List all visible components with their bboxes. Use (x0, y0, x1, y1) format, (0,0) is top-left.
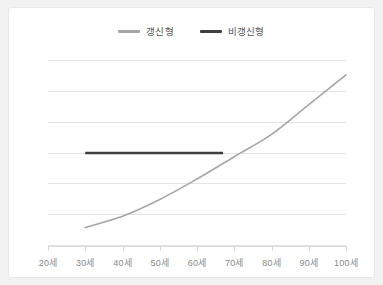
x-axis-tick (346, 246, 347, 251)
x-axis-tick (309, 246, 310, 251)
chart-legend: 갱신형 비갱신형 (9, 24, 374, 38)
x-axis-tick (234, 246, 235, 251)
x-axis-tick-label: 100세 (334, 256, 358, 269)
legend-item-renewable[interactable]: 갱신형 (118, 24, 174, 38)
x-axis-tick-label: 20세 (39, 256, 58, 269)
legend-swatch-non-renewable-icon (200, 30, 222, 33)
x-axis-tick-label: 60세 (188, 256, 207, 269)
series-line-renewable (85, 75, 346, 228)
x-axis-tick (48, 246, 49, 251)
x-axis-tick-label: 40세 (113, 256, 132, 269)
legend-swatch-renewable-icon (118, 30, 140, 33)
x-axis-tick-label: 30세 (76, 256, 95, 269)
x-axis-tick-label: 50세 (150, 256, 169, 269)
plot-area (48, 60, 346, 246)
x-axis-tick (272, 246, 273, 251)
x-axis-labels: 20세30세40세50세60세70세80세90세100세 (48, 256, 346, 270)
x-axis-tick-label: 80세 (262, 256, 281, 269)
x-axis-tick-label: 70세 (225, 256, 244, 269)
series-layer (48, 60, 346, 246)
legend-item-non-renewable[interactable]: 비갱신형 (200, 24, 265, 38)
x-axis-tick (160, 246, 161, 251)
legend-label-renewable: 갱신형 (146, 24, 174, 38)
x-axis-tick-label: 90세 (299, 256, 318, 269)
x-axis-tick (85, 246, 86, 251)
chart-card: 갱신형 비갱신형 20세30세40세50세60세70세80세90세100세 (8, 7, 375, 278)
legend-label-non-renewable: 비갱신형 (228, 24, 265, 38)
x-axis-ticks (48, 246, 346, 252)
x-axis-tick (197, 246, 198, 251)
x-axis-tick (123, 246, 124, 251)
